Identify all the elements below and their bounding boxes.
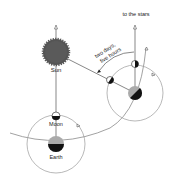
moon-1-icon (52, 112, 60, 120)
earth-label: Earth (49, 154, 62, 160)
earth-orbit-arrow (145, 47, 148, 50)
sun-label: Sun (51, 67, 62, 73)
sun-icon (43, 39, 69, 65)
earth-2-icon (128, 86, 142, 100)
stars-label: to the stars (122, 11, 149, 17)
earth2-stars-arrow-icon (134, 25, 137, 29)
earth-1-icon (48, 136, 64, 152)
moon-2b-icon (107, 77, 114, 84)
sun-stars-arrow-icon (55, 25, 58, 29)
interval-arrow-icon (97, 70, 101, 74)
orbit-direction-arrow-2 (152, 73, 155, 76)
moon-2a-icon (132, 61, 139, 68)
diagram-canvas: Sun Moon Earth to the stars two days, fi… (0, 0, 174, 177)
sun-earth2-line (62, 56, 135, 93)
moon-label: Moon (49, 121, 63, 127)
